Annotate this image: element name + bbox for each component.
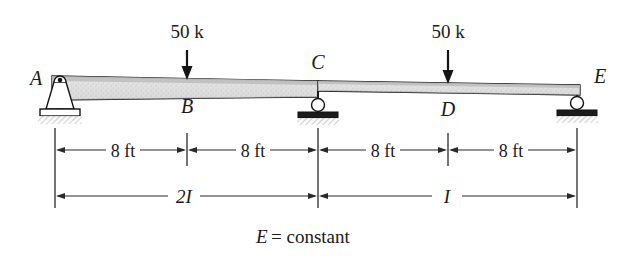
- dim-label-C-D: 8 ft: [371, 141, 396, 161]
- beam-member: [52, 76, 580, 100]
- dim-DE-arrow-left: [449, 147, 458, 153]
- node-label-E: E: [593, 65, 606, 87]
- node-label-D: D: [440, 98, 456, 120]
- dim-2I-arrow-left: [56, 193, 65, 199]
- support-C-base-plate: [298, 112, 338, 118]
- dim-I-arrow-left: [319, 193, 328, 199]
- dim-CD-arrow-left: [319, 147, 328, 153]
- point-load-arrow-B: [182, 50, 193, 80]
- dim-BC-arrow-right: [308, 147, 317, 153]
- node-label-B: B: [181, 95, 193, 117]
- support-A-base-plate: [40, 109, 80, 116]
- stiffness-label-2I: 2I: [176, 186, 194, 207]
- dim-BC-arrow-left: [188, 147, 197, 153]
- dim-label-D-E: 8 ft: [499, 141, 524, 161]
- support-roller-E: [555, 95, 599, 123]
- dimension-row-stiffness: [56, 193, 576, 199]
- dim-label-A-B: 8 ft: [111, 141, 136, 161]
- dim-AB-arrow-right: [177, 147, 186, 153]
- load-D-arrowhead: [443, 70, 454, 84]
- support-A-ground-hatch: [38, 116, 82, 124]
- support-C-ground-hatch: [297, 118, 339, 125]
- dim-label-B-C: 8 ft: [241, 141, 266, 161]
- dim-2I-arrow-right: [308, 193, 317, 199]
- support-E-roller: [571, 97, 584, 110]
- support-C-roller: [312, 99, 325, 112]
- dim-AB-arrow-left: [56, 147, 65, 153]
- diagram-canvas: A B C D E 50 k 50 k 8 ft 8 ft 8 ft 8 ft …: [0, 0, 635, 260]
- beam-diagram-figure: A B C D E 50 k 50 k 8 ft 8 ft 8 ft 8 ft …: [0, 0, 635, 260]
- node-label-A: A: [28, 67, 43, 89]
- point-load-arrow-D: [443, 50, 454, 84]
- node-label-C: C: [311, 51, 325, 73]
- stiffness-label-I: I: [443, 186, 452, 207]
- support-E-base-plate: [557, 110, 597, 116]
- dim-I-arrow-right: [567, 193, 576, 199]
- dim-DE-arrow-right: [567, 147, 576, 153]
- load-label-B: 50 k: [170, 21, 204, 42]
- caption-e-constant: E = constant: [255, 226, 351, 247]
- caption-symbol-E: E: [255, 226, 268, 247]
- caption-equals-constant: = constant: [271, 226, 351, 247]
- support-E-ground-hatch: [556, 116, 598, 123]
- support-A-pin-hole: [58, 78, 63, 83]
- dim-CD-arrow-right: [438, 147, 447, 153]
- load-label-D: 50 k: [431, 21, 465, 42]
